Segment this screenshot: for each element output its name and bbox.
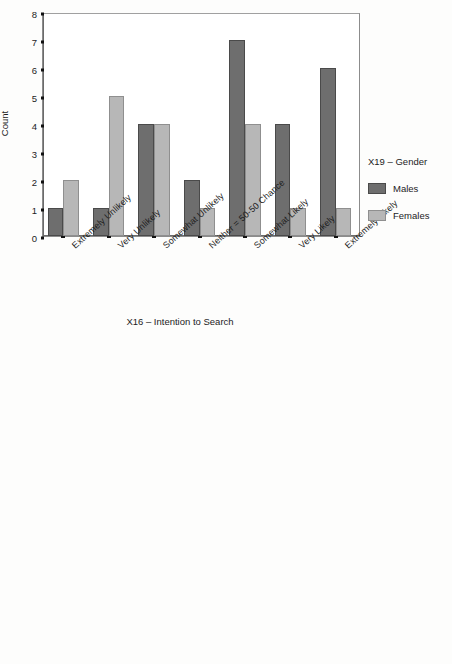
y-tick-mark <box>41 97 44 100</box>
legend-label: Females <box>393 210 429 221</box>
legend-title: X19 – Gender <box>368 156 429 167</box>
chart-worktype: 0246810 Count Extremely UnlikelyVery Unl… <box>0 330 452 664</box>
y-tick-mark <box>41 237 44 240</box>
y-tick-mark <box>41 69 44 72</box>
legend-swatch-icon <box>368 210 386 221</box>
y-tick-mark <box>41 209 44 212</box>
y-tick-mark <box>41 153 44 156</box>
y-tick-mark <box>41 13 44 16</box>
bar <box>63 180 79 236</box>
bar <box>320 68 336 236</box>
y-tick-mark <box>41 181 44 184</box>
plot-area-gender: 012345678 <box>42 13 360 237</box>
legend-gender: X19 – Gender Males Females <box>368 156 429 237</box>
legend-swatch-icon <box>368 183 386 194</box>
legend-item-males[interactable]: Males <box>368 183 429 194</box>
legend-item-females[interactable]: Females <box>368 210 429 221</box>
y-tick-mark <box>41 41 44 44</box>
y-tick-mark <box>41 125 44 128</box>
legend-label: Males <box>393 183 418 194</box>
bar <box>336 208 352 236</box>
chart-gender: 012345678 Count Extremely UnlikelyVery U… <box>0 0 452 336</box>
x-axis-title: X16 – Intention to Search <box>70 316 290 327</box>
y-axis-title: Count <box>0 111 10 136</box>
bar <box>229 40 245 236</box>
bar <box>48 208 64 236</box>
